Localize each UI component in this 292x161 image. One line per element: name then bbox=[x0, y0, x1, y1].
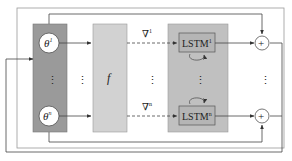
sum-1-icon: + bbox=[258, 37, 264, 49]
grad-n-label: ∇n bbox=[142, 101, 152, 112]
sum-n-icon: + bbox=[258, 110, 264, 122]
top-skip-wire bbox=[49, 14, 262, 38]
optimizer-diagram: θ1 θn f ∇1 ∇n LSTM1 LSTMn + + ⋮ ⋮ ⋮ ⋮ ⋮ bbox=[0, 0, 292, 161]
grad-1-label: ∇1 bbox=[142, 28, 152, 39]
grad-ellipsis: ⋮ bbox=[147, 74, 158, 86]
lstm-1-label: LSTM1 bbox=[182, 38, 212, 49]
bottom-skip-wire bbox=[49, 125, 262, 142]
theta-n-node bbox=[39, 106, 59, 126]
lstm-n-label: LSTMn bbox=[182, 111, 212, 122]
sum-ellipsis: ⋮ bbox=[260, 74, 271, 86]
theta-f-ellipsis: ⋮ bbox=[77, 74, 88, 86]
lstm-ellipsis: ⋮ bbox=[195, 74, 206, 86]
theta-ellipsis: ⋮ bbox=[47, 74, 58, 86]
